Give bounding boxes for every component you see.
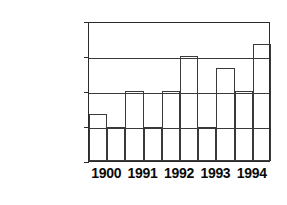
bar (253, 44, 271, 161)
y-tick-mark (84, 127, 89, 128)
x-tick-label: 1994 (231, 166, 273, 180)
y-axis-labels: 0500,0001,000,0001,500,0002,000,000 (0, 0, 84, 205)
bar (89, 114, 107, 161)
bar (235, 91, 253, 161)
bar (216, 68, 234, 161)
bar (107, 127, 125, 161)
x-axis-labels: 19001991199219931994 (88, 166, 270, 196)
y-tick-mark (84, 57, 89, 58)
y-tick-mark (84, 162, 89, 163)
bar (162, 91, 180, 161)
bar (144, 127, 162, 161)
plot-area (88, 22, 270, 162)
y-tick-mark (84, 92, 89, 93)
y-tick-mark (84, 22, 89, 23)
bar-chart: 0500,0001,000,0001,500,0002,000,000 1900… (0, 0, 287, 205)
bar (125, 91, 143, 161)
bar (198, 127, 216, 161)
bars-layer (89, 23, 269, 161)
bar (180, 56, 198, 161)
